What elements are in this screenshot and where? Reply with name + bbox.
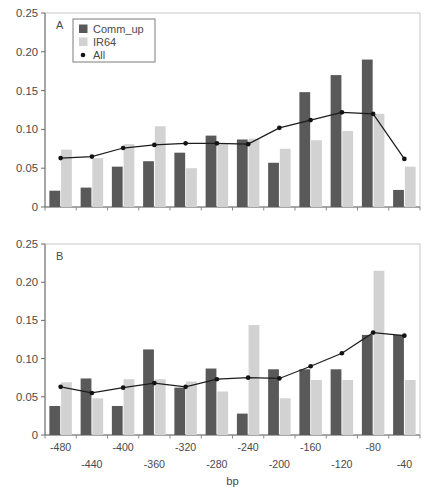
bar-comm-up bbox=[362, 60, 373, 207]
legend: Comm_upIR64All bbox=[73, 19, 155, 62]
line-marker bbox=[308, 364, 313, 369]
bar-comm-up bbox=[49, 406, 60, 435]
bar-comm-up bbox=[299, 369, 310, 435]
y-tick-label: 0.15 bbox=[16, 314, 38, 326]
bar-comm-up bbox=[112, 167, 123, 207]
bar-comm-up bbox=[393, 335, 404, 435]
line-marker bbox=[90, 391, 95, 396]
bar-comm-up bbox=[112, 406, 123, 435]
bar-ir64 bbox=[249, 325, 260, 435]
legend-square-swatch-dark bbox=[79, 25, 88, 34]
bar-ir64 bbox=[92, 398, 103, 435]
bar-ir64 bbox=[124, 144, 135, 207]
x-tick-label: -40 bbox=[397, 458, 412, 470]
line-marker bbox=[121, 146, 126, 151]
y-tick-label: 0.20 bbox=[16, 276, 38, 288]
x-tick-label: -320 bbox=[175, 441, 196, 453]
bar-comm-up bbox=[331, 75, 342, 207]
bar-comm-up bbox=[331, 369, 342, 435]
line-marker bbox=[340, 110, 345, 115]
bar-ir64 bbox=[155, 379, 166, 435]
line-marker bbox=[308, 118, 313, 123]
bar-ir64 bbox=[61, 382, 72, 435]
bar-comm-up bbox=[237, 414, 248, 435]
line-marker bbox=[183, 141, 188, 146]
bar-ir64 bbox=[280, 149, 291, 207]
plot-area-a: 00.050.100.150.200.25AComm_upIR64All bbox=[0, 0, 430, 232]
bar-comm-up bbox=[143, 349, 154, 435]
bar-ir64 bbox=[311, 380, 322, 435]
bar-comm-up bbox=[299, 92, 310, 207]
x-tick-label: -280 bbox=[206, 458, 227, 470]
x-tick-label: -440 bbox=[81, 458, 102, 470]
bar-comm-up bbox=[237, 139, 248, 207]
bar-ir64 bbox=[186, 382, 197, 435]
line-marker bbox=[90, 154, 95, 159]
bar-ir64 bbox=[374, 271, 385, 435]
bar-ir64 bbox=[342, 131, 353, 207]
figure-two-panel-bar-line-chart: 00.050.100.150.200.25AComm_upIR64All 00.… bbox=[0, 0, 430, 492]
legend-label: IR64 bbox=[93, 36, 116, 48]
line-marker bbox=[58, 385, 63, 390]
bar-ir64 bbox=[311, 140, 322, 207]
bar-comm-up bbox=[174, 388, 185, 435]
line-marker bbox=[402, 333, 407, 338]
y-tick-label: 0.10 bbox=[16, 123, 38, 135]
line-marker bbox=[246, 142, 251, 147]
y-tick-label: 0.25 bbox=[16, 238, 38, 250]
bar-ir64 bbox=[405, 380, 416, 435]
legend-label: Comm_up bbox=[93, 23, 144, 35]
bar-ir64 bbox=[217, 391, 228, 435]
line-marker bbox=[152, 381, 157, 386]
y-tick-label: 0.10 bbox=[16, 353, 38, 365]
line-marker bbox=[371, 112, 376, 117]
panel-label-a: A bbox=[56, 19, 64, 31]
y-tick-label: 0 bbox=[32, 429, 38, 441]
y-tick-label: 0.20 bbox=[16, 46, 38, 58]
line-marker bbox=[340, 351, 345, 356]
line-marker bbox=[277, 376, 282, 381]
line-marker bbox=[183, 385, 188, 390]
bar-comm-up bbox=[174, 153, 185, 207]
line-marker bbox=[58, 156, 63, 161]
y-tick-label: 0 bbox=[32, 201, 38, 213]
x-tick-label: -480 bbox=[50, 441, 71, 453]
x-tick-label: -80 bbox=[365, 441, 380, 453]
bar-ir64 bbox=[92, 158, 103, 207]
line-marker bbox=[246, 375, 251, 380]
x-tick-label: -240 bbox=[238, 441, 259, 453]
chart-panel-b: 00.050.100.150.200.25-480-440-400-360-32… bbox=[0, 232, 430, 492]
bar-ir64 bbox=[217, 143, 228, 207]
line-marker bbox=[215, 377, 220, 382]
bar-comm-up bbox=[143, 161, 154, 207]
line-marker bbox=[371, 330, 376, 335]
plot-area-b: 00.050.100.150.200.25-480-440-400-360-32… bbox=[0, 232, 430, 492]
line-marker bbox=[402, 157, 407, 162]
bar-comm-up bbox=[49, 191, 60, 207]
bar-ir64 bbox=[405, 167, 416, 207]
legend-dot-marker bbox=[81, 53, 86, 58]
bar-comm-up bbox=[362, 335, 373, 435]
chart-panel-a: 00.050.100.150.200.25AComm_upIR64All bbox=[0, 0, 430, 232]
y-tick-label: 0.05 bbox=[16, 162, 38, 174]
bar-ir64 bbox=[342, 380, 353, 435]
bar-ir64 bbox=[186, 168, 197, 207]
x-axis-title: bp bbox=[226, 475, 239, 487]
line-marker bbox=[152, 143, 157, 148]
line-marker bbox=[121, 385, 126, 390]
bar-comm-up bbox=[81, 188, 92, 207]
x-tick-label: -200 bbox=[269, 458, 290, 470]
x-tick-label: -400 bbox=[113, 441, 134, 453]
bar-comm-up bbox=[81, 378, 92, 435]
bar-ir64 bbox=[280, 398, 291, 435]
bar-comm-up bbox=[268, 163, 279, 207]
line-marker bbox=[277, 126, 282, 131]
panel-label-b: B bbox=[56, 250, 63, 262]
bar-comm-up bbox=[206, 136, 217, 207]
x-tick-label: -160 bbox=[300, 441, 321, 453]
y-tick-label: 0.05 bbox=[16, 391, 38, 403]
x-tick-label: -360 bbox=[144, 458, 165, 470]
bar-ir64 bbox=[249, 139, 260, 207]
y-tick-label: 0.15 bbox=[16, 85, 38, 97]
x-tick-label: -120 bbox=[331, 458, 352, 470]
